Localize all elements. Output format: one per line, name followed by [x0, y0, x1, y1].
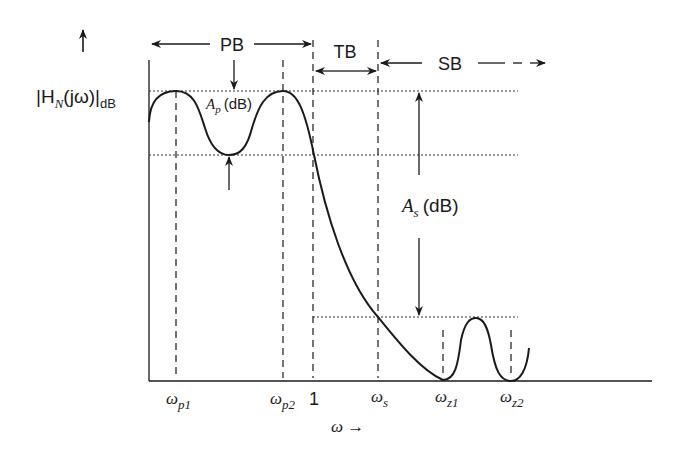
passband-label: PB: [220, 35, 244, 55]
transition-band-indicator: TB: [316, 42, 376, 71]
tick-one: 1: [309, 389, 319, 409]
tick-wz2: ωz2: [500, 387, 524, 410]
stopband-attenuation-label: As(dB): [400, 195, 459, 220]
stopband-attenuation-indicator: As(dB): [400, 93, 459, 315]
x-axis-label: ω →: [331, 417, 364, 436]
passband-indicator: PB: [152, 35, 311, 55]
x-tick-labels: ωp1 ωp2 1 ωs ωz1 ωz2: [166, 387, 524, 412]
transition-band-label: TB: [333, 42, 356, 62]
stopband-label: SB: [438, 54, 462, 74]
tick-ws: ωs: [371, 387, 388, 410]
tick-wp1: ωp1: [166, 389, 191, 412]
tick-wz1: ωz1: [435, 387, 459, 410]
passband-ripple-label: Ap(dB): [205, 95, 252, 115]
passband-ripple-indicator: Ap(dB): [205, 60, 252, 190]
response-curve: [149, 91, 529, 381]
stopband-indicator: SB: [381, 54, 545, 74]
filter-response-diagram: |HN(jω)|dB PB TB SB: [0, 0, 685, 455]
y-axis-label: |HN(jω)|dB: [36, 86, 116, 111]
tick-wp2: ωp2: [270, 389, 296, 412]
